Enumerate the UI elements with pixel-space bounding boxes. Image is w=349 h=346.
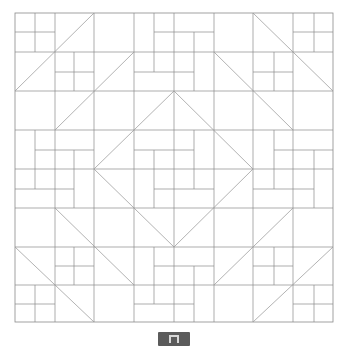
diagonal-line — [15, 247, 94, 322]
grid-lines — [15, 13, 333, 322]
toolbar-button-icon — [169, 335, 179, 343]
diagonal-line — [214, 208, 293, 285]
toolbar-button[interactable] — [158, 332, 190, 346]
diagonal-line — [55, 208, 134, 285]
